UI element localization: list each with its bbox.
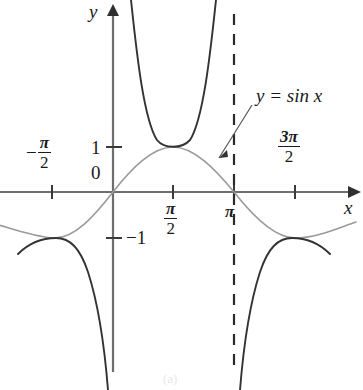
cosecant-branch-right bbox=[240, 238, 330, 390]
x-axis-label: x bbox=[344, 198, 352, 217]
fraction-denominator: 2 bbox=[38, 154, 51, 171]
figure-caption: (a) bbox=[163, 371, 177, 387]
annotation-arrow bbox=[219, 105, 252, 158]
x-tick-label-neg-pi-over-2: − π 2 bbox=[26, 134, 51, 171]
fraction: 3π 2 bbox=[278, 128, 300, 165]
x-axis bbox=[0, 186, 361, 198]
fraction: π 2 bbox=[38, 134, 51, 171]
fraction-denominator: 2 bbox=[164, 220, 177, 237]
fraction: π 2 bbox=[164, 200, 177, 237]
sine-curve-label: y = sin x bbox=[256, 86, 322, 105]
y-axis-label: y bbox=[89, 2, 97, 21]
y-tick-label-neg1: −1 bbox=[126, 228, 146, 247]
y-tick-label-1: 1 bbox=[91, 138, 101, 157]
fraction-numerator: π bbox=[164, 200, 177, 217]
fraction-denominator: 2 bbox=[278, 148, 300, 165]
figure-container: y x y = sin x 1 0 −1 − π 2 π 2 π 3π 2 (a… bbox=[0, 0, 363, 390]
x-tick-label-3pi-over-2: 3π 2 bbox=[278, 128, 300, 165]
fraction-numerator: 3π bbox=[278, 128, 300, 145]
cosecant-branch-left bbox=[18, 238, 108, 390]
x-tick-label-pi-over-2: π 2 bbox=[164, 200, 177, 237]
cosecant-branch-center bbox=[131, 0, 216, 147]
graph-canvas bbox=[0, 0, 363, 390]
minus-sign: − bbox=[26, 143, 37, 162]
fraction-numerator: π bbox=[38, 134, 51, 151]
x-tick-label-pi: π bbox=[225, 203, 234, 220]
y-tick-label-0: 0 bbox=[91, 163, 101, 182]
